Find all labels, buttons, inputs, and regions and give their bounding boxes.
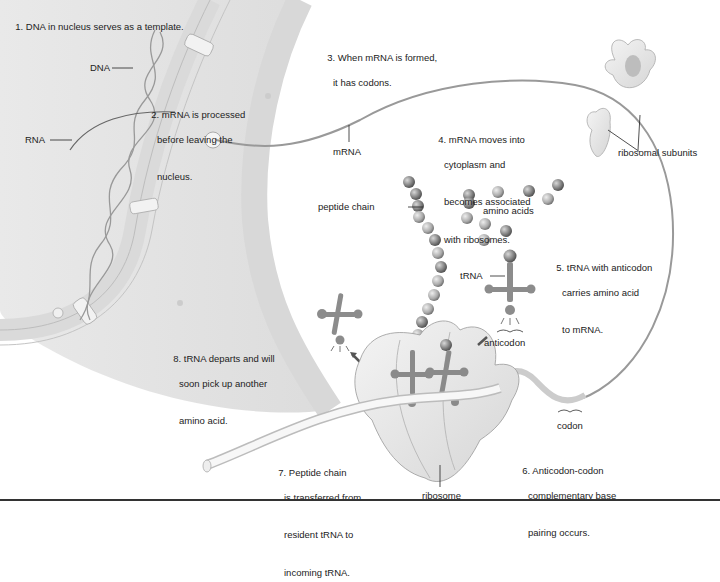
trna-incoming xyxy=(485,250,536,333)
bottom-rule xyxy=(0,499,720,501)
step-8: 8. tRNA departs and will soon pick up an… xyxy=(168,340,275,440)
step-4: 4. mRNA moves into cytoplasm and becomes… xyxy=(433,121,531,259)
label-amino-acids: amino acids xyxy=(483,205,534,217)
step-1: 1. DNA in nucleus serves as a template. xyxy=(10,8,184,33)
step-7: 7. Peptide chain is transferred from res… xyxy=(273,454,361,582)
label-dna: DNA xyxy=(90,62,110,74)
step-2: 2. mRNA is processed before leaving the … xyxy=(146,96,245,196)
label-peptide-chain: peptide chain xyxy=(318,201,375,213)
label-anticodon: anticodon xyxy=(484,337,525,349)
step-5: 5. tRNA with anticodon carries amino aci… xyxy=(551,249,652,349)
ribosomal-subunits xyxy=(587,40,655,157)
label-ribosomal-subunits: ribosomal subunits xyxy=(618,147,697,159)
step-6: 6. Anticodon-codon complementary base pa… xyxy=(517,452,616,552)
trna-departing xyxy=(317,293,363,352)
label-rna: RNA xyxy=(25,134,45,146)
label-codon: codon xyxy=(557,420,583,432)
label-trna: tRNA xyxy=(460,270,483,282)
codon-brace xyxy=(558,410,582,412)
nucleus xyxy=(0,0,330,413)
label-mrna: mRNA xyxy=(333,146,361,158)
step-3: 3. When mRNA is formed, it has codons. xyxy=(322,39,437,102)
